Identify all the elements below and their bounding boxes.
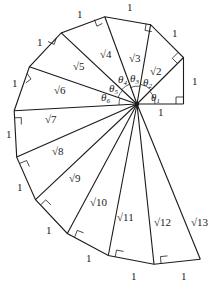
side-label-12: 1 xyxy=(131,270,137,282)
theta-1-label: θ1 xyxy=(151,91,160,105)
sqrt-9-label: √9 xyxy=(69,172,81,184)
side-label-6: 1 xyxy=(37,36,43,48)
side-label-4: 1 xyxy=(127,1,133,13)
theodorus-spiral-diagram: θ1 θ2 θ3 θ4 θ5 θ6 √2 √3 √4 √5 √6 √7 √8 √… xyxy=(0,0,211,289)
sqrt-6-label: √6 xyxy=(54,84,66,96)
sqrt-7-label: √7 xyxy=(45,113,57,125)
side-label-2: 1 xyxy=(192,75,198,87)
center-point xyxy=(135,102,139,106)
side-label-9: 1 xyxy=(17,181,23,193)
side-label-1: 1 xyxy=(158,106,164,118)
theta-5-label: θ5 xyxy=(109,82,118,96)
sqrt-2-label: √2 xyxy=(150,65,162,77)
sqrt-13-label: √13 xyxy=(191,216,209,228)
sqrt-12-label: √12 xyxy=(154,216,171,228)
side-label-5: 1 xyxy=(77,8,83,20)
sqrt-4-label: √4 xyxy=(100,48,112,60)
sqrt-5-label: √5 xyxy=(73,60,85,72)
side-label-10: 1 xyxy=(46,224,52,236)
sqrt-3-label: √3 xyxy=(129,52,141,64)
side-label-13: 1 xyxy=(181,270,187,282)
sqrt-8-label: √8 xyxy=(52,145,64,157)
sqrt-11-label: √11 xyxy=(117,211,134,223)
side-label-11: 1 xyxy=(86,252,92,264)
theta-2-label: θ2 xyxy=(143,76,152,90)
theta-3-label: θ3 xyxy=(130,72,139,86)
sqrt-10-label: √10 xyxy=(90,196,108,208)
side-label-7: 1 xyxy=(12,77,18,89)
side-label-3: 1 xyxy=(172,27,178,39)
side-label-8: 1 xyxy=(6,128,12,140)
